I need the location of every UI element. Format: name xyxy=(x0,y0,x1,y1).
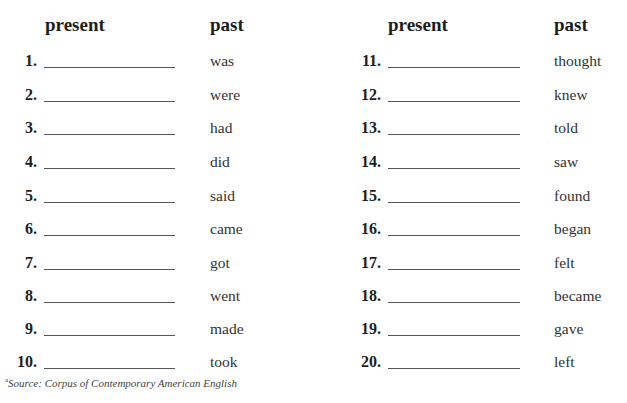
item-number: 11. xyxy=(351,52,381,70)
item-number: 5. xyxy=(7,187,37,205)
answer-blank-line[interactable] xyxy=(44,134,175,135)
header-right-present: present xyxy=(388,14,448,36)
answer-blank-line[interactable] xyxy=(44,235,175,236)
past-tense-word: was xyxy=(210,52,234,70)
past-tense-word: had xyxy=(210,119,232,137)
answer-blank-line[interactable] xyxy=(44,67,175,68)
past-tense-word: knew xyxy=(554,86,588,104)
past-tense-word: told xyxy=(554,119,578,137)
item-number: 9. xyxy=(7,320,37,338)
item-number: 18. xyxy=(351,287,381,305)
past-tense-word: said xyxy=(210,187,235,205)
past-tense-word: began xyxy=(554,220,591,238)
answer-blank-line[interactable] xyxy=(388,202,520,203)
footnote-text: Source: Corpus of Contemporary American … xyxy=(8,377,237,389)
past-tense-word: went xyxy=(210,287,240,305)
past-tense-word: felt xyxy=(554,254,575,272)
past-tense-word: found xyxy=(554,187,590,205)
answer-blank-line[interactable] xyxy=(44,368,175,369)
past-tense-word: were xyxy=(210,86,240,104)
answer-blank-line[interactable] xyxy=(44,101,175,102)
answer-blank-line[interactable] xyxy=(388,335,520,336)
item-number: 17. xyxy=(351,254,381,272)
past-tense-word: became xyxy=(554,287,601,305)
past-tense-word: made xyxy=(210,320,244,338)
past-tense-word: gave xyxy=(554,320,583,338)
item-number: 6. xyxy=(7,220,37,238)
item-number: 10. xyxy=(7,353,37,371)
answer-blank-line[interactable] xyxy=(388,269,520,270)
header-right-past: past xyxy=(554,14,588,36)
answer-blank-line[interactable] xyxy=(44,269,175,270)
item-number: 14. xyxy=(351,153,381,171)
past-tense-word: came xyxy=(210,220,243,238)
item-number: 4. xyxy=(7,153,37,171)
answer-blank-line[interactable] xyxy=(388,168,520,169)
past-tense-word: took xyxy=(210,353,238,371)
past-tense-word: did xyxy=(210,153,230,171)
answer-blank-line[interactable] xyxy=(44,202,175,203)
item-number: 1. xyxy=(7,52,37,70)
item-number: 8. xyxy=(7,287,37,305)
item-number: 2. xyxy=(7,86,37,104)
footnote: aSource: Corpus of Contemporary American… xyxy=(5,376,237,389)
answer-blank-line[interactable] xyxy=(44,335,175,336)
answer-blank-line[interactable] xyxy=(44,302,175,303)
answer-blank-line[interactable] xyxy=(44,168,175,169)
item-number: 16. xyxy=(351,220,381,238)
header-left-past: past xyxy=(210,14,244,36)
item-number: 15. xyxy=(351,187,381,205)
item-number: 13. xyxy=(351,119,381,137)
past-tense-word: got xyxy=(210,254,230,272)
answer-blank-line[interactable] xyxy=(388,302,520,303)
item-number: 12. xyxy=(351,86,381,104)
answer-blank-line[interactable] xyxy=(388,67,520,68)
item-number: 19. xyxy=(351,320,381,338)
answer-blank-line[interactable] xyxy=(388,368,520,369)
past-tense-word: thought xyxy=(554,52,601,70)
item-number: 3. xyxy=(7,119,37,137)
past-tense-word: saw xyxy=(554,153,578,171)
item-number: 7. xyxy=(7,254,37,272)
answer-blank-line[interactable] xyxy=(388,101,520,102)
answer-blank-line[interactable] xyxy=(388,235,520,236)
past-tense-word: left xyxy=(554,353,575,371)
header-left-present: present xyxy=(45,14,105,36)
item-number: 20. xyxy=(351,353,381,371)
answer-blank-line[interactable] xyxy=(388,134,520,135)
